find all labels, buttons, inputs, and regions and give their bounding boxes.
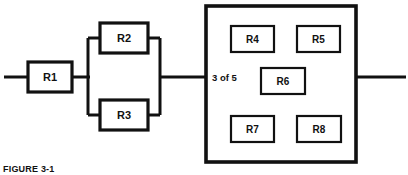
block-r3[interactable]: R3 — [100, 100, 148, 130]
koon-group[interactable]: 3 of 5 R4 R5 R6 R7 R8 — [206, 6, 356, 162]
block-r1[interactable]: R1 — [28, 62, 72, 92]
block-r7[interactable]: R7 — [231, 116, 274, 142]
block-r8-label: R8 — [313, 124, 326, 135]
block-r6-label: R6 — [277, 76, 290, 87]
block-r2[interactable]: R2 — [100, 23, 148, 53]
block-r5-label: R5 — [312, 34, 325, 45]
block-r3-label: R3 — [117, 109, 131, 121]
koon-group-label: 3 of 5 — [212, 72, 238, 83]
figure-container: R1 R2 R3 3 of 5 R4 R5 R6 — [0, 0, 408, 175]
figure-caption: FIGURE 3-1 — [3, 164, 55, 174]
reliability-block-diagram: R1 R2 R3 3 of 5 R4 R5 R6 — [0, 0, 408, 175]
block-r4[interactable]: R4 — [231, 26, 274, 52]
block-r1-label: R1 — [43, 71, 57, 83]
block-r4-label: R4 — [246, 34, 259, 45]
block-r2-label: R2 — [117, 32, 131, 44]
block-r6[interactable]: R6 — [261, 68, 305, 94]
block-r5[interactable]: R5 — [297, 26, 340, 52]
block-r7-label: R7 — [246, 124, 259, 135]
block-r8[interactable]: R8 — [297, 116, 341, 142]
